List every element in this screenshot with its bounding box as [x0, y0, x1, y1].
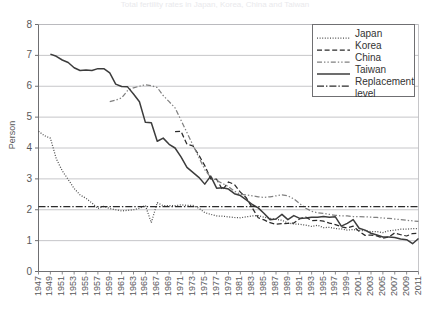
chart-legend: JapanKoreaChinaTaiwanReplacementlevel [312, 24, 415, 97]
legend-item-china: China [317, 52, 411, 64]
legend-label-taiwan: Taiwan [355, 64, 386, 76]
legend-item-taiwan: Taiwan [317, 64, 411, 76]
legend-label-replacement: Replacement [355, 76, 414, 88]
legend-label-japan: Japan [355, 28, 382, 40]
legend-swatch-china [317, 53, 350, 63]
legend-label-china: China [355, 52, 381, 64]
fertility-rate-chart: Total fertility rates in Japan, Korea, C… [0, 0, 433, 321]
legend-swatch-taiwan [317, 65, 350, 75]
series-line-korea [175, 131, 418, 238]
legend-label-korea: Korea [355, 40, 382, 52]
legend-swatch-replacement [317, 77, 350, 87]
legend-item-replacement: Replacement [317, 76, 411, 88]
legend-item-korea: Korea [317, 40, 411, 52]
legend-swatch-japan [317, 29, 350, 39]
legend-swatch-korea [317, 41, 350, 51]
series-line-china [110, 85, 419, 222]
legend-item-japan: Japan [317, 28, 411, 40]
